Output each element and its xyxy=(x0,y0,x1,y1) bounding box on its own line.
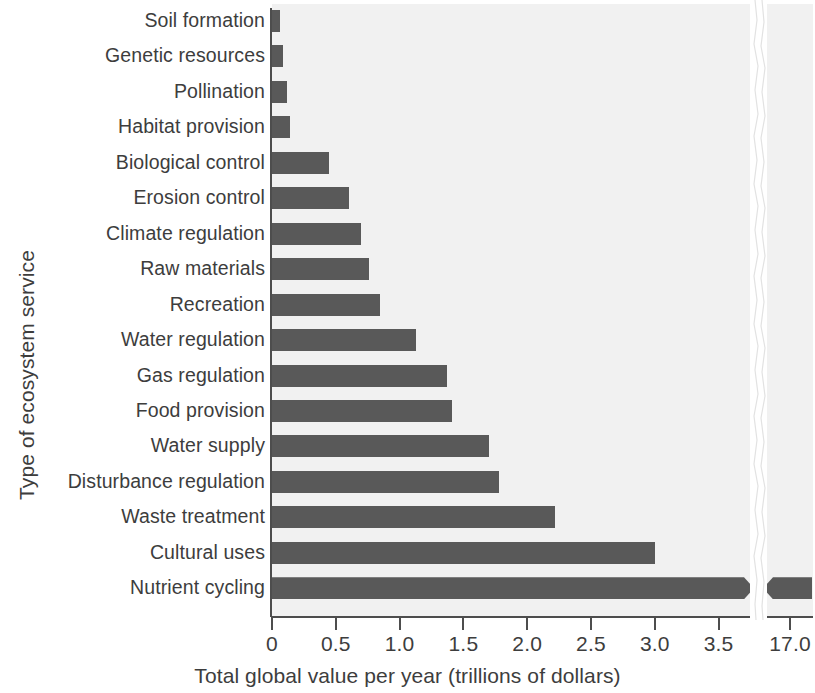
bar-4 xyxy=(272,152,329,174)
x-tick-1 xyxy=(335,618,337,630)
bar-10 xyxy=(272,365,447,387)
category-label-8: Recreation xyxy=(170,295,265,315)
x-tick-4 xyxy=(526,618,528,630)
x-axis-title: Total global value per year (trillions o… xyxy=(0,664,815,688)
x-tick-0 xyxy=(271,618,273,630)
bar-9 xyxy=(272,329,416,351)
bar-12 xyxy=(272,435,489,457)
category-label-11: Food provision xyxy=(136,401,265,421)
bar-11 xyxy=(272,400,452,422)
category-label-4: Biological control xyxy=(116,153,265,173)
category-label-14: Waste treatment xyxy=(121,507,265,527)
bar-0 xyxy=(272,10,280,32)
x-tick-label-6: 3.0 xyxy=(640,632,670,656)
category-label-6: Climate regulation xyxy=(106,224,265,244)
bar-16-right-segment xyxy=(763,577,812,599)
bar-16 xyxy=(272,577,754,599)
axis-break-squiggle xyxy=(750,0,767,620)
x-tick-label-3: 1.5 xyxy=(448,632,478,656)
category-label-2: Pollination xyxy=(174,82,265,102)
bar-6 xyxy=(272,223,361,245)
x-tick-5 xyxy=(590,618,592,630)
category-label-15: Cultural uses xyxy=(150,543,265,563)
bar-chart-figure: 00.51.01.52.02.53.03.517.0 Soil formatio… xyxy=(0,0,815,693)
bar-5 xyxy=(272,187,349,209)
x-tick-label-8: 17.0 xyxy=(769,632,811,656)
bar-2 xyxy=(272,81,287,103)
category-label-7: Raw materials xyxy=(140,259,265,279)
x-tick-label-7: 3.5 xyxy=(704,632,734,656)
bar-15 xyxy=(272,542,655,564)
x-tick-label-5: 2.5 xyxy=(576,632,606,656)
x-tick-6 xyxy=(654,618,656,630)
bar-1 xyxy=(272,45,283,67)
bar-7 xyxy=(272,258,369,280)
x-tick-2 xyxy=(399,618,401,630)
x-tick-label-2: 1.0 xyxy=(385,632,415,656)
bar-14 xyxy=(272,506,555,528)
bar-3 xyxy=(272,116,290,138)
category-label-1: Genetic resources xyxy=(105,46,265,66)
y-axis-line xyxy=(270,8,272,617)
x-axis-line xyxy=(271,616,752,618)
x-tick-label-0: 0 xyxy=(266,632,278,656)
x-tick-label-1: 0.5 xyxy=(321,632,351,656)
category-label-0: Soil formation xyxy=(144,11,265,31)
x-tick-label-4: 2.0 xyxy=(512,632,542,656)
category-label-5: Erosion control xyxy=(133,188,265,208)
category-label-10: Gas regulation xyxy=(137,366,265,386)
category-label-13: Disturbance regulation xyxy=(68,472,265,492)
x-tick-3 xyxy=(462,618,464,630)
bar-13 xyxy=(272,471,499,493)
category-label-3: Habitat provision xyxy=(118,117,265,137)
y-axis-title: Type of ecosystem service xyxy=(15,175,39,575)
x-tick-8 xyxy=(789,618,791,630)
category-label-12: Water supply xyxy=(151,436,265,456)
bar-8 xyxy=(272,294,380,316)
x-tick-7 xyxy=(718,618,720,630)
category-label-16: Nutrient cycling xyxy=(130,578,265,598)
plot-area-background-right xyxy=(765,4,813,616)
category-label-9: Water regulation xyxy=(121,330,265,350)
